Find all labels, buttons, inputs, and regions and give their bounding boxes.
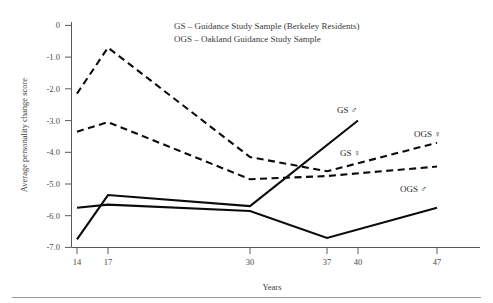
y-tick-label: -2.0 [47, 84, 60, 94]
y-tick-label: -3.0 [47, 116, 60, 126]
x-tick-label: 37 [323, 257, 332, 267]
series-line-gs-male [77, 121, 358, 240]
y-axis-title: Average personality change score [19, 78, 29, 193]
y-tick-label: -7.0 [47, 242, 60, 252]
y-axis-ticks: 0 -1.0 -2.0 -3.0 -4.0 -5.0 -6.0 -7.0 [47, 20, 72, 252]
series-line-gs-female [77, 122, 437, 179]
series-label-gs-female: GS ♀ [340, 148, 361, 158]
line-chart-plot: 0 -1.0 -2.0 -3.0 -4.0 -5.0 -6.0 -7.0 14 … [0, 0, 493, 303]
series-line-ogs-female [77, 48, 437, 172]
footer-divider [12, 297, 481, 298]
series-label-gs-male: GS ♂ [337, 105, 358, 115]
y-tick-label: -6.0 [47, 211, 60, 221]
y-tick-label: -1.0 [47, 52, 60, 62]
series-label-ogs-female: OGS ♀ [414, 129, 441, 139]
x-tick-label: 30 [246, 257, 255, 267]
series-group [77, 48, 437, 240]
x-tick-label: 40 [354, 257, 363, 267]
x-tick-label: 47 [433, 257, 442, 267]
series-line-ogs-male [77, 205, 437, 238]
x-tick-label: 17 [104, 257, 113, 267]
legend-line-gs: GS – Guidance Study Sample (Berkeley Res… [174, 21, 359, 31]
x-tick-label: 14 [73, 257, 82, 267]
x-axis-title: Years [263, 282, 282, 292]
y-tick-label: -4.0 [47, 147, 60, 157]
y-tick-label: -5.0 [47, 179, 60, 189]
x-axis-ticks: 14 17 30 37 40 47 [73, 248, 442, 268]
series-label-ogs-male: OGS ♂ [400, 184, 427, 194]
y-tick-label: 0 [56, 20, 60, 30]
legend-line-ogs: OGS – Oakland Guidance Study Sample [174, 34, 321, 44]
chart-figure: 0 -1.0 -2.0 -3.0 -4.0 -5.0 -6.0 -7.0 14 … [0, 0, 493, 303]
series-annotations: GS ♂ OGS ♀ GS ♀ OGS ♂ [337, 105, 441, 194]
